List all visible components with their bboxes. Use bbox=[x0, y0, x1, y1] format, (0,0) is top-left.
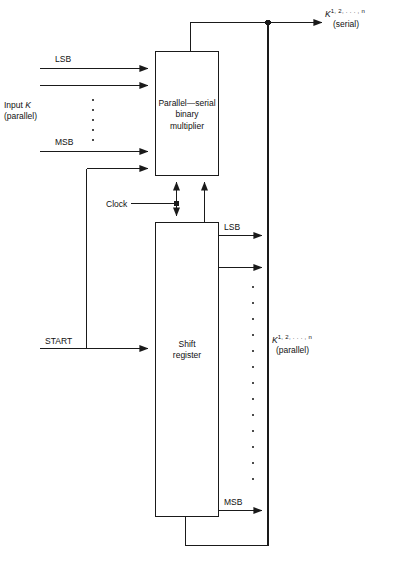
start-label: START bbox=[45, 336, 72, 347]
input-lsb-label: LSB bbox=[55, 54, 71, 65]
multiplier-label-line1: Parallel—serial bbox=[158, 98, 215, 108]
input-k-prefix: Input bbox=[4, 100, 25, 110]
input-k-label: Input K (parallel) bbox=[4, 100, 37, 121]
ellipsis-dot bbox=[252, 318, 254, 320]
ellipsis-dot bbox=[92, 129, 94, 131]
ellipsis-dot bbox=[252, 446, 254, 448]
ellipsis-dot bbox=[92, 139, 94, 141]
ellipsis-dot bbox=[252, 478, 254, 480]
ellipsis-dot bbox=[252, 382, 254, 384]
ellipsis-dot bbox=[252, 430, 254, 432]
ellipsis-dot bbox=[252, 334, 254, 336]
clock-junction-dot bbox=[174, 201, 179, 206]
input-ellipsis bbox=[92, 99, 94, 141]
clock-label: Clock bbox=[106, 199, 127, 210]
ellipsis-dot bbox=[252, 398, 254, 400]
ellipsis-dot bbox=[252, 462, 254, 464]
output-ellipsis bbox=[252, 286, 254, 480]
input-k-symbol: K bbox=[25, 100, 31, 110]
input-msb-label: MSB bbox=[55, 137, 73, 148]
parallel-output-label: K1, 2, . . . , n (parallel) bbox=[272, 334, 312, 356]
shift-register-block-outline bbox=[156, 223, 219, 517]
shift-register-block-label: Shift register bbox=[155, 339, 219, 362]
input-k-mode: (parallel) bbox=[4, 111, 37, 121]
multiplier-label-line3: multiplier bbox=[170, 121, 204, 131]
ellipsis-dot bbox=[252, 414, 254, 416]
ellipsis-dot bbox=[252, 366, 254, 368]
ellipsis-dot bbox=[252, 350, 254, 352]
ellipsis-dot bbox=[92, 119, 94, 121]
diagram-wiring bbox=[0, 0, 397, 561]
shift-register-label-line1: Shift bbox=[178, 339, 195, 349]
output-lsb-label: LSB bbox=[224, 222, 240, 233]
serial-output-mode: (serial) bbox=[333, 19, 359, 30]
serial-output-superscript: 1, 2, . . . , n bbox=[331, 8, 366, 14]
parallel-output-mode: (parallel) bbox=[276, 345, 309, 356]
ellipsis-dot bbox=[252, 302, 254, 304]
ellipsis-dot bbox=[252, 286, 254, 288]
parallel-output-superscript: 1, 2, . . . , n bbox=[278, 334, 313, 340]
multiplier-label-line2: binary bbox=[175, 109, 198, 119]
output-msb-label: MSB bbox=[224, 497, 242, 508]
serial-output-label: K1, 2, . . . , n (serial) bbox=[325, 8, 365, 30]
diagram-canvas: Parallel—serial binary multiplier Shift … bbox=[0, 0, 397, 561]
shift-register-label-line2: register bbox=[173, 350, 201, 360]
ellipsis-dot bbox=[92, 99, 94, 101]
ellipsis-dot bbox=[92, 109, 94, 111]
multiplier-block-label: Parallel—serial binary multiplier bbox=[155, 98, 219, 132]
